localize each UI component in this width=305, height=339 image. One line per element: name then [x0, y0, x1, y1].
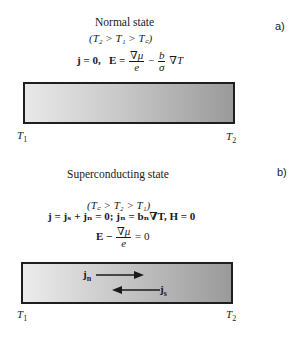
current-zero: j = 0, — [77, 54, 101, 66]
fraction-grad-mu-over-e: ∇μ e — [129, 50, 144, 73]
fraction-grad-mu-over-e: ∇μ e — [116, 226, 131, 249]
panel-a-condition: (T₂ > T₁ > T꜀) — [89, 30, 152, 45]
panel-a-T2-label: T2 — [226, 130, 236, 145]
right-arrow-icon — [94, 270, 146, 280]
panel-a-T1-label: T1 — [17, 129, 27, 144]
left-arrow-icon — [110, 285, 162, 295]
normal-state-bar — [23, 82, 235, 124]
panel-b-equation-2: E − ∇μ e = 0 — [96, 226, 150, 249]
supercurrent-label: js — [160, 283, 167, 298]
superconducting-state-bar — [21, 262, 233, 304]
panel-b-T2-label: T2 — [226, 308, 236, 323]
panel-a-title: Normal state — [95, 16, 154, 28]
panel-a-tag: a) — [275, 20, 285, 32]
panel-b-title: Superconducting state — [67, 168, 169, 180]
field-lhs: E = — [109, 54, 125, 66]
fraction-b-over-sigma: b σ — [158, 50, 166, 73]
panel-b-tag: b) — [277, 166, 287, 178]
normal-current-label: jn — [83, 268, 91, 283]
panel-b-equation-1: j = jₛ + jₙ = 0; jₙ = bₙ∇T, H = 0 — [48, 210, 195, 223]
panel-a-equation: j = 0, E = ∇μ e − b σ ∇T — [77, 50, 183, 73]
panel-b-T1-label: T1 — [17, 308, 27, 323]
